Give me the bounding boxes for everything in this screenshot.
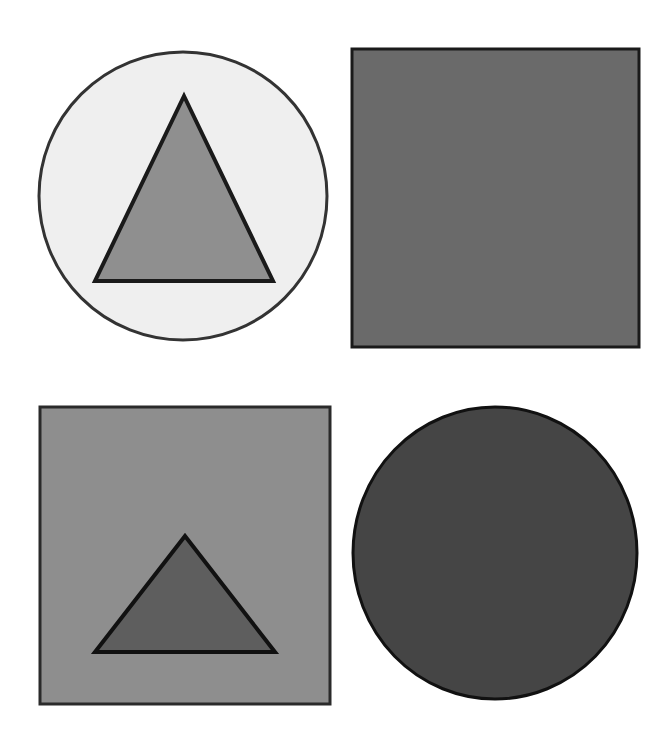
bottom-right-circle (353, 407, 637, 699)
shapes-figure (0, 0, 671, 744)
top-right-square (352, 49, 639, 347)
